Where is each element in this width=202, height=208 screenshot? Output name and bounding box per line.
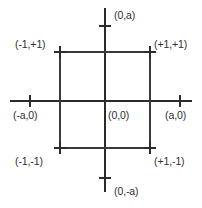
diagram-canvas: [0, 0, 202, 208]
label-bottom-right-corner: (+1,-1): [154, 156, 185, 167]
label-bottom-left-corner: (-1,-1): [15, 156, 43, 167]
label-origin: (0,0): [108, 110, 129, 121]
label-top-left-corner: (-1,+1): [15, 39, 46, 50]
label-top-right-corner: (+1,+1): [154, 39, 187, 50]
label-left-axis: (-a,0): [13, 110, 38, 121]
coordinate-diagram: (0,a) (-1,+1) (+1,+1) (-a,0) (0,0) (a,0)…: [0, 0, 202, 208]
label-bottom-axis: (0,-a): [114, 186, 139, 197]
label-top-axis: (0,a): [114, 10, 135, 21]
label-right-axis: (a,0): [165, 110, 186, 121]
